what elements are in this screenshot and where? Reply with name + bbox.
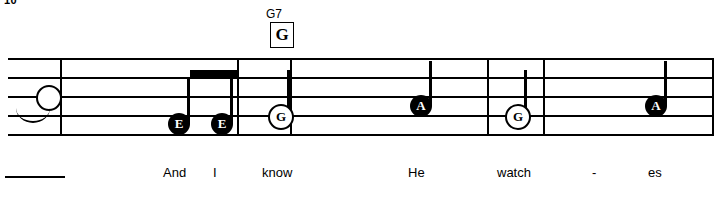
staff-line-3 — [8, 96, 712, 98]
notehead-a-7: A — [645, 95, 667, 117]
staff-line-2 — [8, 77, 712, 79]
music-score-system: 10 G7 G EEGAGA AndIknowHewatch-es — [0, 0, 724, 198]
eighth-note-beam — [190, 70, 238, 79]
chord-diagram-box: G — [270, 22, 294, 48]
notehead-g-6: G — [505, 104, 531, 130]
chord-symbol: G7 — [262, 8, 302, 20]
notehead-g-4: G — [268, 104, 294, 130]
lyric-syllable-1: And — [163, 165, 186, 180]
lyric-syllable-7: es — [648, 165, 662, 180]
lyric-syllable-4: He — [408, 165, 425, 180]
measure-number: 10 — [4, 0, 17, 6]
notehead-e-2: E — [168, 113, 190, 135]
staff — [8, 58, 712, 135]
staff-line-4 — [8, 115, 712, 117]
lyric-syllable-3: know — [262, 165, 292, 180]
lyric-syllable-6: - — [592, 165, 596, 180]
staff-line-5 — [8, 134, 712, 136]
barline-4 — [487, 58, 489, 136]
barline-5 — [543, 58, 545, 136]
staff-line-1 — [8, 58, 712, 60]
notehead-a-5: A — [410, 95, 432, 117]
lyric-syllable-5: watch — [497, 165, 531, 180]
barline-6 — [712, 58, 714, 136]
notehead-e-3: E — [211, 113, 233, 135]
lyric-extender-line — [5, 176, 65, 178]
chord-annotation: G7 G — [262, 8, 302, 48]
lyric-syllable-2: I — [213, 165, 217, 180]
